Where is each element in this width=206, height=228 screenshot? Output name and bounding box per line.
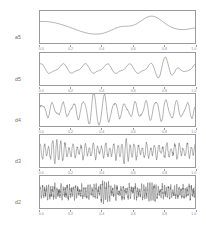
plot-frame-4 (39, 175, 196, 209)
plot-frame-1 (39, 52, 196, 86)
plot-curve-0 (40, 11, 195, 43)
panel-label-2: d4 (0, 117, 36, 123)
x-axis-0: 0.00.20.40.60.81.0 (39, 45, 196, 52)
plot-curve-3 (40, 135, 195, 167)
x-tick-label: 1.0 (191, 211, 196, 217)
panel-label-3: d3 (0, 158, 36, 164)
plot-curve-4 (40, 176, 195, 208)
panel-label-1: d5 (0, 76, 36, 82)
x-axis-4: 0.00.20.40.60.81.0 (39, 210, 196, 217)
plot-frame-3 (39, 134, 196, 168)
x-tick-label: 0.6 (131, 211, 136, 217)
plot-frame-0 (39, 10, 196, 44)
x-tick-label: 0.2 (68, 211, 73, 217)
plot-curve-2 (40, 94, 195, 126)
wavelet-decomposition-figure: a5 0.00.20.40.60.81.0 d5 0.00.20.40.60.8… (0, 0, 206, 228)
x-tick-label: 0.0 (39, 211, 44, 217)
panel-label-0: a5 (0, 34, 36, 40)
x-tick-label: 0.4 (99, 211, 104, 217)
panel-label-4: d2 (0, 199, 36, 205)
plot-curve-1 (40, 53, 195, 85)
x-tick-label: 0.8 (162, 211, 167, 217)
plot-frame-2 (39, 93, 196, 127)
